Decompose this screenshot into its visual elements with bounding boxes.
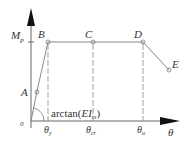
y-axis-label: Mp xyxy=(10,29,24,44)
origin-label: 0 xyxy=(20,120,24,128)
y-axis-arrow-icon xyxy=(27,8,35,26)
point-b-label: B xyxy=(38,28,45,40)
point-a-label: A xyxy=(20,86,28,98)
point-d-label: D xyxy=(133,28,142,40)
point-e-label: E xyxy=(171,58,179,70)
point-c-label: C xyxy=(85,28,93,40)
theta-y-label: θy xyxy=(44,124,52,136)
moment-rotation-diagram: Mp 0 A B C D E arctan(EIcr) θy θcr θu θ xyxy=(0,0,193,147)
theta-cr-label: θcr xyxy=(86,124,97,136)
angle-arc xyxy=(34,108,44,121)
x-axis-label: θ xyxy=(168,126,174,138)
x-axis-arrow-icon xyxy=(160,117,180,125)
theta-u-label: θu xyxy=(137,124,145,136)
